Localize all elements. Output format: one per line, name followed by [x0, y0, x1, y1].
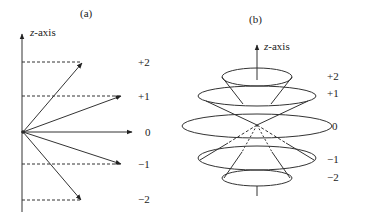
panel-a-vector-plus1 [23, 96, 121, 132]
panel-a-level-plus1: +1 [138, 91, 150, 102]
panel-a-axis-label: z-axis [30, 27, 56, 38]
panel-b-level-minus1: −1 [327, 154, 339, 165]
panel-b-level-plus1: +1 [327, 88, 339, 99]
panel-a-axis-suffix: -axis [34, 26, 55, 38]
panel-b-cone-diagram [182, 45, 332, 196]
panel-a-level-plus2: +2 [138, 57, 150, 68]
panel-a-level-minus1: −1 [138, 159, 150, 170]
panel-b-circle-minus2 [222, 170, 292, 186]
panel-b-axis-label: z-axis [264, 41, 290, 52]
panel-a-title: (a) [80, 8, 92, 19]
panel-b-axis-suffix: -axis [268, 40, 289, 52]
panel-a-vector-minus1 [23, 132, 121, 164]
panel-b-circle-plus1 [198, 86, 316, 106]
panel-b-level-minus2: −2 [327, 172, 339, 183]
panel-a-level-zero: 0 [145, 127, 151, 138]
panel-a-level-minus2: −2 [138, 194, 150, 205]
panel-b-level-zero: 0 [332, 121, 338, 132]
panel-b-title: (b) [249, 14, 262, 25]
panel-a-vector-minus2 [23, 132, 81, 200]
panel-b-level-plus2: +2 [327, 71, 339, 82]
panel-b-circle-minus1 [198, 146, 316, 170]
panel-a-vector-diagram [22, 34, 132, 212]
